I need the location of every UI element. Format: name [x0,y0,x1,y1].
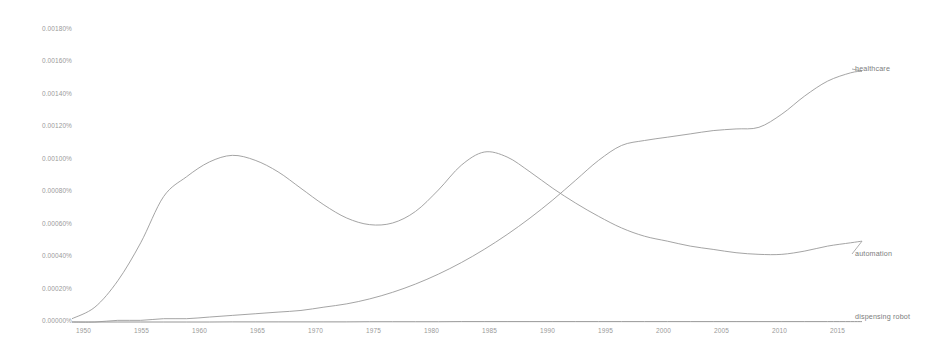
series-label-dispensing-robot[interactable]: dispensing robot [855,312,910,321]
series-label-healthcare[interactable]: healthcare [855,64,890,73]
series-line-automation [72,152,862,319]
series-line-dispensing-robot [72,321,862,322]
ngram-chart: 0.00180% 0.00160% 0.00140% 0.00120% 0.00… [0,0,947,354]
series-label-automation[interactable]: automation [855,249,892,258]
plot-area [0,0,947,354]
series-line-healthcare [72,71,862,322]
